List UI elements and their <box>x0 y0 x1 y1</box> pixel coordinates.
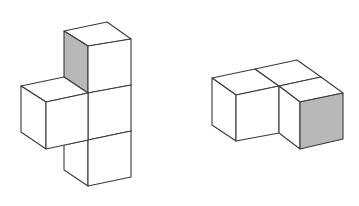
cube-middle-front-face <box>88 85 131 140</box>
cube-left <box>21 77 88 149</box>
front-right-cube-shaded-front-face <box>300 93 343 149</box>
right-figure <box>212 60 343 149</box>
back-left-cube-front-face <box>236 86 279 141</box>
cube-top <box>64 22 131 93</box>
cube-left-front-face <box>46 93 88 149</box>
cube-middle <box>88 85 131 140</box>
cube-top-front-face <box>88 39 131 93</box>
cube-bottom-left-face <box>64 140 88 186</box>
left-figure <box>21 22 131 186</box>
cube-diagram: Two isometric cube assemblies: a 4-cube … <box>0 0 359 206</box>
diagram-canvas <box>0 0 359 206</box>
cube-bottom-front-face <box>88 131 131 186</box>
